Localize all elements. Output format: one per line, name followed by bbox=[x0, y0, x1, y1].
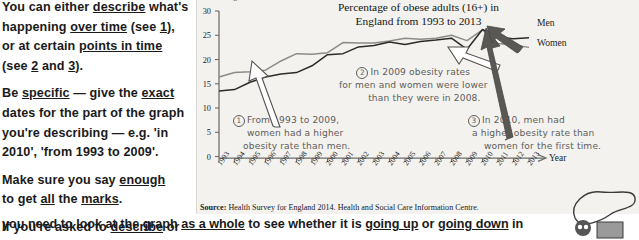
annotation-2-line2: for men and women were lower bbox=[339, 80, 488, 90]
doodle-box bbox=[597, 222, 623, 238]
annotation-2-line3: than they were in 2008. bbox=[346, 93, 480, 103]
annotation-3-line2: a higher obesity rate than bbox=[468, 128, 594, 138]
annotation-3-line3: women for the first time. bbox=[468, 141, 601, 151]
notes-line: You can either bbox=[2, 0, 93, 14]
page-root: You can either describe what's happening… bbox=[0, 0, 639, 240]
svg-text:15: 15 bbox=[203, 80, 211, 89]
annotation-1-number: 1 bbox=[233, 115, 245, 127]
doodle-eye-right bbox=[584, 225, 588, 229]
series-label-women: Women bbox=[537, 37, 567, 48]
svg-text:5: 5 bbox=[207, 128, 211, 137]
svg-text:10: 10 bbox=[203, 104, 211, 113]
annotation-1-line3: obesity rate than men. bbox=[233, 141, 350, 151]
svg-text:30: 30 bbox=[203, 7, 211, 16]
svg-text:25: 25 bbox=[203, 31, 211, 40]
chart-source-text: Health Survey for England 2014. Health a… bbox=[228, 203, 478, 212]
series-label-men: Men bbox=[537, 17, 555, 28]
doodle-eye-left bbox=[578, 225, 582, 229]
cartoon-doodle bbox=[567, 178, 639, 240]
svg-text:20: 20 bbox=[203, 56, 211, 65]
annotation-3-line1: In 2010, men had bbox=[482, 115, 565, 125]
annotation-2-number: 2 bbox=[356, 67, 368, 79]
annotation-3: 3In 2010, men had a higher obesity rate … bbox=[468, 114, 601, 154]
chart-source-prefix: Source: bbox=[200, 203, 226, 212]
y-ticks: 30 25 20 15 10 5 0 bbox=[203, 7, 219, 162]
x-axis-title: Year bbox=[549, 153, 567, 163]
doodle-head bbox=[575, 220, 591, 236]
doodle-squiggle bbox=[574, 192, 635, 224]
svg-text:0: 0 bbox=[207, 153, 211, 162]
annotation-2: 2In 2009 obesity rates for men and women… bbox=[339, 66, 488, 106]
notes-bottom-line: you need to look at the graph as a whole… bbox=[2, 217, 602, 231]
notes-underlined-describe: describe bbox=[93, 0, 146, 14]
annotation-1-line1: From 1993 to 2009, bbox=[247, 115, 339, 125]
annotation-2-line1: In 2009 obesity rates bbox=[370, 67, 470, 77]
chart-source: Source: Health Survey for England 2014. … bbox=[200, 203, 620, 212]
annotation-3-number: 3 bbox=[468, 115, 480, 127]
annotation-1-line2: women had a higher bbox=[233, 128, 343, 138]
annotation-1: 1From 1993 to 2009, women had a higher o… bbox=[233, 114, 350, 154]
